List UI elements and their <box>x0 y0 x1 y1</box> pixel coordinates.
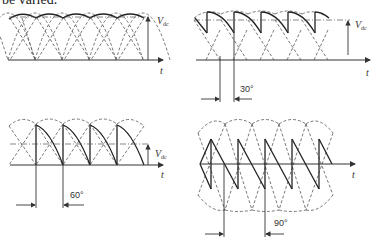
angle-label: 60° <box>70 190 84 200</box>
vdc-label: Vdc <box>155 148 167 160</box>
rectifier-waveforms-diagram: Vdc t Vdc t <box>0 0 375 242</box>
panel-alpha-60: Vdc t 60° <box>9 119 167 208</box>
vdc-label: Vdc <box>355 19 367 31</box>
time-label: t <box>366 67 369 78</box>
angle-label: 90° <box>274 218 288 228</box>
vdc-label: Vdc <box>157 15 169 27</box>
panel-alpha-30: Vdc t 30° <box>194 11 370 102</box>
time-label: t <box>161 169 164 180</box>
time-label: t <box>352 169 355 180</box>
panel-alpha-0: Vdc t <box>0 13 170 76</box>
panel-alpha-90: t 90° <box>198 120 355 238</box>
angle-label: 30° <box>240 84 254 94</box>
time-label: t <box>160 65 163 76</box>
